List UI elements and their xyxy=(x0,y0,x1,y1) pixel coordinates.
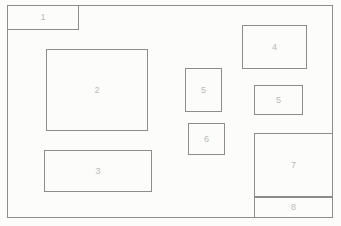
box-5-right-label: 5 xyxy=(276,96,281,105)
box-3-label: 3 xyxy=(95,167,100,176)
diagram-canvas: 1 2 3 4 5 5 6 7 8 xyxy=(0,0,341,226)
box-8-label: 8 xyxy=(291,203,296,212)
box-3: 3 xyxy=(44,150,152,192)
box-5-center-label: 5 xyxy=(201,86,206,95)
box-8: 8 xyxy=(254,197,333,218)
box-1: 1 xyxy=(7,5,79,30)
box-5-right: 5 xyxy=(254,85,303,115)
box-6: 6 xyxy=(188,123,225,155)
box-4: 4 xyxy=(242,25,307,69)
box-1-label: 1 xyxy=(40,13,45,22)
box-4-label: 4 xyxy=(272,43,277,52)
box-2: 2 xyxy=(46,49,148,131)
box-7-label: 7 xyxy=(291,161,296,170)
box-5-center: 5 xyxy=(185,68,222,112)
box-2-label: 2 xyxy=(94,86,99,95)
box-7: 7 xyxy=(254,133,333,197)
box-6-label: 6 xyxy=(204,135,209,144)
